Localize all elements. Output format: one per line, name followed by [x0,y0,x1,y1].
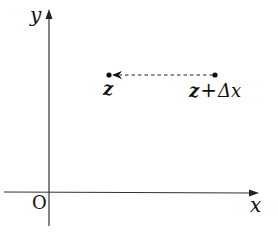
displacement-arrow [112,71,213,79]
delta-x-symbol: Δx [218,80,241,101]
x-axis-label: x [250,195,261,215]
point-z-label: z [103,80,113,98]
y-axis-label: y [30,5,41,25]
point-z [106,72,111,77]
origin-label: O [32,194,47,212]
plus-symbol: + [200,78,217,102]
point-z-plus-dx [212,72,217,77]
y-axis-arrowhead-icon [46,9,53,19]
coordinate-diagram: y x O z z+Δx [0,0,278,238]
point-z-plus-dx-label: z+Δx [189,80,241,100]
z-symbol: z [189,80,199,101]
